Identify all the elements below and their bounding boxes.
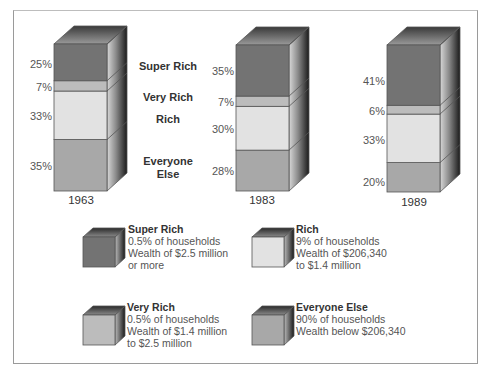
segment-super-rich bbox=[54, 44, 107, 81]
segment-very-rich bbox=[387, 105, 440, 114]
segment-label-else: Else bbox=[128, 168, 208, 181]
legend-line: 9% of households bbox=[296, 235, 436, 247]
pct-1989-else: 20% bbox=[349, 176, 385, 188]
legend-title: Super Rich bbox=[128, 223, 268, 235]
bar-1989 bbox=[387, 27, 460, 192]
pct-1963-else: 35% bbox=[16, 160, 52, 172]
bar-1963 bbox=[54, 26, 127, 191]
pct-1989-rich: 33% bbox=[349, 134, 385, 146]
legend-cube-everyone-else bbox=[251, 301, 297, 349]
legend-line: Wealth below $206,340 bbox=[296, 325, 436, 337]
legend-line: or more bbox=[128, 259, 268, 271]
year-1989: 1989 bbox=[384, 196, 444, 208]
pct-1963-very: 7% bbox=[16, 81, 52, 93]
segment-label-rich: Rich bbox=[128, 113, 208, 126]
segment-rich bbox=[387, 114, 440, 163]
legend-line: 0.5% of households bbox=[127, 313, 267, 325]
legend-cube-rich bbox=[251, 223, 297, 271]
segment-very-rich bbox=[236, 96, 289, 106]
segment-everyone-else bbox=[236, 150, 289, 191]
pct-1989-very: 6% bbox=[349, 105, 385, 117]
legend-line: Wealth of $2.5 million bbox=[128, 247, 268, 259]
segment-everyone-else bbox=[387, 163, 440, 192]
segment-label-everyone: Everyone bbox=[128, 155, 208, 168]
legend-line: 90% of households bbox=[296, 313, 436, 325]
legend-line: to $2.5 million bbox=[127, 337, 267, 349]
segment-super-rich bbox=[236, 45, 289, 96]
segment-everyone-else bbox=[54, 140, 107, 191]
legend-line: 0.5% of households bbox=[128, 235, 268, 247]
segment-rich bbox=[236, 106, 289, 150]
segment-label-super-rich: Super Rich bbox=[128, 60, 208, 73]
segment-super-rich bbox=[387, 45, 440, 105]
legend-line: to $1.4 million bbox=[296, 259, 436, 271]
legend-title: Everyone Else bbox=[296, 301, 436, 313]
bar-1983 bbox=[236, 27, 309, 191]
legend-cube-super-rich bbox=[82, 223, 128, 271]
legend-cube-very-rich bbox=[82, 301, 128, 349]
segment-rich bbox=[54, 91, 107, 140]
segment-very-rich bbox=[54, 81, 107, 91]
year-1963: 1963 bbox=[51, 194, 111, 206]
segment-label-very-rich: Very Rich bbox=[128, 91, 208, 104]
pct-1963-rich: 33% bbox=[16, 110, 52, 122]
pct-1989-super: 41% bbox=[349, 75, 385, 87]
legend-line: Wealth of $1.4 million bbox=[127, 325, 267, 337]
legend-title: Very Rich bbox=[127, 301, 267, 313]
legend-title: Rich bbox=[296, 223, 436, 235]
pct-1963-super: 25% bbox=[16, 58, 52, 70]
legend-line: Wealth of $206,340 bbox=[296, 247, 436, 259]
year-1983: 1983 bbox=[232, 194, 292, 206]
